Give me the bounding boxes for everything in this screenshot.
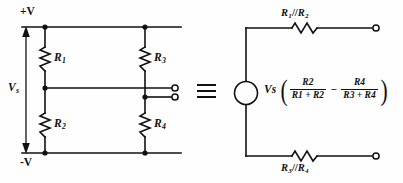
equiv-top-resistor-zigzag <box>292 23 317 33</box>
formula-term-2: R4 R3 + R4 <box>341 77 377 102</box>
formula-prefix: Vs <box>264 83 276 95</box>
equiv-output-terminal-top <box>373 25 379 31</box>
junction-dot-node-b <box>142 94 147 99</box>
formula-term-1-denominator: R1 + R2 <box>290 90 326 102</box>
output-terminal-upper <box>172 85 178 91</box>
equiv-output-terminal-bottom <box>373 153 379 159</box>
resistor-r4-zigzag <box>140 113 150 137</box>
formula-term-2-denominator: R3 + R4 <box>341 90 377 102</box>
output-terminal-lower <box>172 94 178 100</box>
formula-term-2-numerator: R4 <box>352 77 367 89</box>
resistor-r3-zigzag <box>140 47 150 71</box>
formula-close-paren: ) <box>380 79 387 101</box>
formula-operator: − <box>331 83 337 95</box>
equiv-bottom-resistor-zigzag <box>292 151 317 161</box>
resistor-r2-zigzag <box>40 113 50 137</box>
thevenin-voltage-formula: Vs ( R2 R1 + R2 − R4 R3 + R4 ) <box>264 77 389 102</box>
positive-rail-label: +V <box>20 6 35 18</box>
junction-dot-node-a <box>42 85 47 90</box>
equiv-bottom-resistor-label: R3//R4 <box>281 163 309 175</box>
junction-dot-bottom-left <box>42 150 47 155</box>
voltage-source-circle <box>235 82 258 105</box>
resistor-label-r4: R4 <box>154 118 166 131</box>
formula-open-paren: ( <box>280 79 287 101</box>
resistor-label-r3: R3 <box>154 52 166 65</box>
equivalence-symbol <box>197 84 216 99</box>
circuit-figure: +V -V Vs R1 R2 R3 R4 R1//R2 R3//R4 Vs ( … <box>0 0 403 183</box>
formula-term-1-numerator: R2 <box>300 77 315 89</box>
source-voltage-label: Vs <box>8 82 19 95</box>
resistor-r1-zigzag <box>40 47 50 71</box>
junction-dot-bottom-right <box>142 150 147 155</box>
junction-dot-top-right <box>142 24 147 29</box>
resistor-label-r1: R1 <box>54 52 66 65</box>
formula-term-1: R2 R1 + R2 <box>290 77 326 102</box>
negative-rail-label: -V <box>20 157 32 169</box>
equiv-top-resistor-label: R1//R2 <box>281 8 309 20</box>
junction-dot-top-left <box>42 24 47 29</box>
resistor-label-r2: R2 <box>54 118 66 131</box>
